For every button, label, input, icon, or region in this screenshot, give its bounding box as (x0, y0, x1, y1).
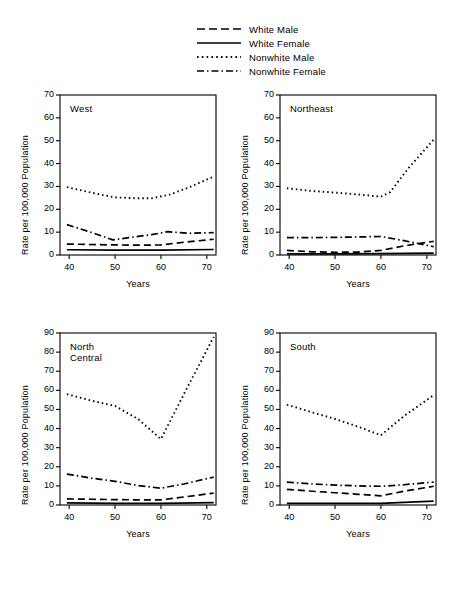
series-line-nonwhite-male (287, 395, 434, 435)
legend-item: White Female (196, 36, 396, 50)
legend-key-white-male (196, 24, 242, 34)
plot-frame (280, 95, 436, 255)
y-tick-label: 60 (26, 112, 54, 122)
y-tick-label: 10 (246, 480, 274, 490)
series-line-white-female (67, 503, 214, 504)
series-line-nonwhite-female (287, 482, 434, 486)
y-tick-label: 0 (26, 499, 54, 509)
series-line-nonwhite-female (67, 225, 214, 240)
y-tick-label: 90 (26, 327, 54, 337)
y-tick-label: 30 (26, 442, 54, 452)
y-tick-label: 70 (246, 89, 274, 99)
y-tick-label: 30 (246, 442, 274, 452)
legend-item: Nonwhite Female (196, 64, 396, 78)
y-tick-label: 30 (26, 180, 54, 190)
series-line-white-male (67, 493, 214, 500)
x-axis-label: Years (280, 279, 436, 289)
y-tick-label: 90 (246, 327, 274, 337)
x-tick-label: 50 (100, 262, 130, 272)
x-tick-label: 40 (54, 512, 84, 522)
y-tick-label: 20 (246, 461, 274, 471)
legend-item: White Male (196, 22, 396, 36)
series-line-white-male (67, 239, 214, 245)
y-tick-label: 60 (246, 112, 274, 122)
y-tick-label: 40 (26, 158, 54, 168)
y-tick-label: 40 (246, 423, 274, 433)
legend-key-nonwhite-male (196, 52, 242, 62)
y-tick-label: 30 (246, 180, 274, 190)
y-tick-label: 20 (246, 203, 274, 213)
y-tick-label: 20 (26, 203, 54, 213)
legend-label-nonwhite-male: Nonwhite Male (242, 52, 314, 63)
legend-key-nonwhite-female (196, 66, 242, 76)
x-tick-label: 70 (192, 262, 222, 272)
series-line-white-female (67, 250, 214, 251)
y-axis-label: Rate per 100,000 Population (240, 135, 250, 255)
legend-item: Nonwhite Male (196, 50, 396, 64)
y-tick-label: 10 (26, 226, 54, 236)
y-tick-label: 0 (26, 249, 54, 259)
legend-key-white-female (196, 38, 242, 48)
x-tick-label: 60 (146, 262, 176, 272)
x-tick-label: 50 (320, 262, 350, 272)
series-line-nonwhite-male (287, 140, 434, 197)
x-tick-label: 40 (274, 512, 304, 522)
y-tick-label: 50 (26, 403, 54, 413)
y-tick-label: 10 (26, 480, 54, 490)
series-line-white-male (287, 241, 434, 252)
x-axis-label: Years (60, 279, 216, 289)
legend-label-white-male: White Male (242, 24, 299, 35)
x-axis-label: Years (280, 529, 436, 539)
y-tick-label: 0 (246, 499, 274, 509)
panel-title-northeast: Northeast (290, 103, 333, 114)
y-tick-label: 80 (26, 346, 54, 356)
series-line-nonwhite-female (67, 474, 214, 488)
y-axis-label: Rate per 100,000 Population (240, 385, 250, 505)
x-tick-label: 50 (320, 512, 350, 522)
series-line-nonwhite-female (287, 236, 434, 246)
x-axis-label: Years (60, 529, 216, 539)
plot-frame (60, 95, 216, 255)
y-axis-label: Rate per 100,000 Population (20, 135, 30, 255)
panel-title-north-central: North Central (70, 341, 102, 363)
y-tick-label: 40 (26, 423, 54, 433)
y-tick-label: 60 (246, 384, 274, 394)
x-tick-label: 50 (100, 512, 130, 522)
panel-title-west: West (70, 103, 92, 114)
x-tick-label: 70 (412, 512, 442, 522)
y-tick-label: 70 (26, 89, 54, 99)
legend: White Male White Female Nonwhite Male No… (196, 22, 396, 78)
y-axis-label: Rate per 100,000 Population (20, 385, 30, 505)
y-tick-label: 60 (26, 384, 54, 394)
x-tick-label: 60 (366, 262, 396, 272)
y-tick-label: 50 (246, 135, 274, 145)
x-tick-label: 70 (192, 512, 222, 522)
y-tick-label: 80 (246, 346, 274, 356)
y-tick-label: 50 (26, 135, 54, 145)
x-tick-label: 40 (54, 262, 84, 272)
x-tick-label: 70 (412, 262, 442, 272)
legend-label-nonwhite-female: Nonwhite Female (242, 66, 326, 77)
y-tick-label: 20 (26, 461, 54, 471)
x-tick-label: 40 (274, 262, 304, 272)
y-tick-label: 10 (246, 226, 274, 236)
y-tick-label: 40 (246, 158, 274, 168)
series-line-white-male (287, 486, 434, 496)
panel-title-south: South (290, 341, 316, 352)
x-tick-label: 60 (366, 512, 396, 522)
legend-label-white-female: White Female (242, 38, 310, 49)
series-line-white-female (287, 253, 434, 254)
x-tick-label: 60 (146, 512, 176, 522)
series-line-white-female (287, 501, 434, 503)
y-tick-label: 70 (26, 365, 54, 375)
series-line-nonwhite-male (67, 177, 214, 199)
y-tick-label: 50 (246, 403, 274, 413)
y-tick-label: 70 (246, 365, 274, 375)
y-tick-label: 0 (246, 249, 274, 259)
plot-frame (280, 333, 436, 505)
